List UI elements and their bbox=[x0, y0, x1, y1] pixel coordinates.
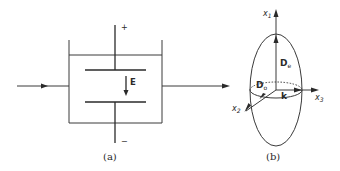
x1-axis-label: x1 bbox=[262, 9, 272, 19]
x1-axis-arrow-icon bbox=[274, 9, 279, 17]
output-beam-arrow-icon bbox=[222, 84, 230, 89]
x3-axis-arrow-icon bbox=[311, 88, 319, 93]
positive-terminal-label: + bbox=[121, 23, 128, 32]
negative-terminal-label: − bbox=[121, 137, 128, 146]
figure-canvas: + − E (a) x1 x3 x2 De Do bbox=[0, 0, 340, 171]
figure-a: + − E (a) bbox=[17, 23, 230, 162]
caption-a: (a) bbox=[103, 151, 117, 162]
x2-axis-label: x2 bbox=[231, 104, 241, 114]
field-label: E bbox=[130, 77, 136, 87]
x2-axis-arrow-icon bbox=[245, 103, 252, 112]
x3-axis-label: x3 bbox=[314, 93, 324, 103]
de-vector-arrow-icon bbox=[274, 35, 279, 43]
extraordinary-vector-label: De bbox=[280, 58, 291, 69]
caption-b: (b) bbox=[266, 151, 280, 162]
field-arrow-icon bbox=[124, 90, 129, 96]
wavevector-label: k bbox=[281, 91, 288, 101]
figure-b: x1 x3 x2 De Do k (b) bbox=[231, 9, 324, 162]
input-beam-arrow-icon bbox=[41, 84, 48, 89]
ordinary-vector-label: Do bbox=[256, 80, 267, 91]
